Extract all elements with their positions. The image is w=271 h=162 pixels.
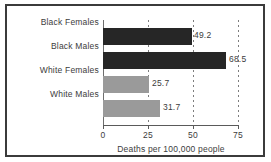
tick-label-50: 50 <box>188 130 198 140</box>
bar-value-label: 68.5 <box>229 54 246 64</box>
tick-mark-25 <box>148 125 149 129</box>
category-label: Black Females <box>41 14 99 31</box>
plot-area: 49.2 68.5 25.7 31.7 <box>103 20 239 122</box>
category-label-row: Black Males <box>19 38 99 55</box>
category-label: Black Males <box>51 38 99 55</box>
bar-chart-figure: Black Females Black Males White Females … <box>0 0 271 162</box>
bar-value-label: 31.7 <box>163 102 180 112</box>
bar-black-males <box>103 52 226 69</box>
category-label: White Females <box>40 62 99 79</box>
tick-label-75: 75 <box>233 130 243 140</box>
category-label: White Males <box>50 86 99 103</box>
category-label-row: White Females <box>19 62 99 79</box>
tick-mark-50 <box>193 125 194 129</box>
bar-black-females <box>103 28 192 45</box>
bar-white-females <box>103 76 149 93</box>
x-axis-line <box>103 125 239 126</box>
tick-mark-75 <box>238 125 239 129</box>
tick-label-25: 25 <box>143 130 153 140</box>
bar-white-males <box>103 100 160 117</box>
category-label-row: Black Females <box>19 14 99 31</box>
tick-mark-0 <box>103 125 104 129</box>
figure-border: Black Females Black Males White Females … <box>5 4 265 157</box>
x-axis-title: Deaths per 100,000 people <box>103 144 239 154</box>
category-label-row: White Males <box>19 86 99 103</box>
bar-value-label: 25.7 <box>152 78 169 88</box>
bar-value-label: 49.2 <box>194 30 211 40</box>
tick-label-0: 0 <box>101 130 106 140</box>
